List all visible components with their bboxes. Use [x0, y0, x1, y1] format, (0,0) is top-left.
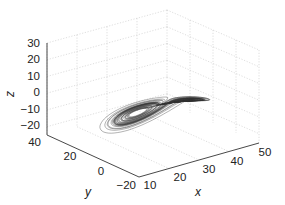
z-tick: 10 [27, 70, 40, 82]
x-tick: 10 [144, 179, 157, 191]
z-tick: 20 [27, 53, 40, 65]
y-tick: 40 [28, 136, 41, 148]
z-tick: −20 [20, 119, 40, 131]
x-tick: 50 [259, 146, 272, 158]
x-tick-labels: 10 20 30 40 50 [144, 146, 272, 191]
y-tick: 0 [98, 165, 104, 177]
trajectory [100, 97, 210, 134]
y-axis-line [47, 135, 139, 177]
lorenz-3d-plot: 30 20 10 0 −10 −20 40 20 0 −20 10 20 30 … [0, 0, 285, 205]
z-axis-label: z [3, 91, 17, 98]
y-axis-label: y [84, 185, 92, 199]
z-tick: 30 [27, 37, 40, 49]
x-axis-label: x [194, 185, 202, 199]
y-tick-labels: 40 20 0 −20 [28, 136, 136, 191]
x-tick: 30 [203, 163, 216, 175]
y-tick: −20 [116, 179, 136, 191]
y-tick: 20 [64, 150, 77, 162]
z-tick: 0 [34, 86, 40, 98]
x-tick: 20 [174, 171, 187, 183]
x-tick: 40 [231, 155, 244, 167]
grid-lines [47, 10, 259, 169]
trajectory-path [100, 97, 210, 134]
z-tick-labels: 30 20 10 0 −10 −20 [20, 37, 40, 131]
z-tick: −10 [20, 103, 40, 115]
